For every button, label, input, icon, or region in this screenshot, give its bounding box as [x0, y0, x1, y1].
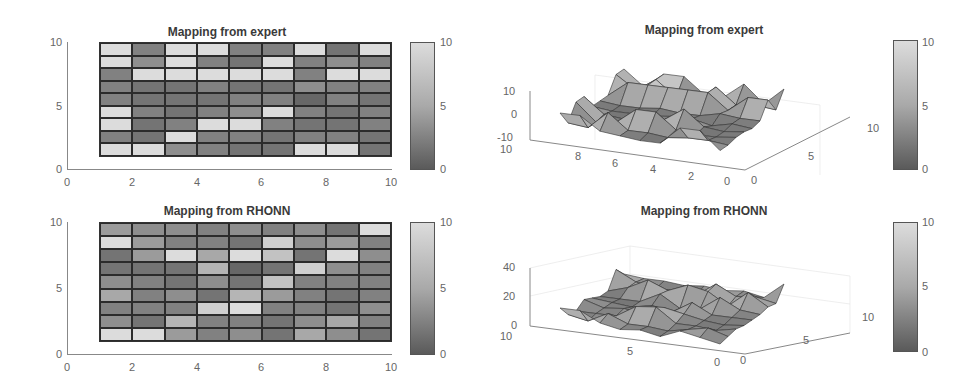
heatmap-cell — [197, 262, 229, 275]
x-tick: 0 — [714, 356, 720, 368]
heatmap-cell — [165, 236, 197, 249]
colorbar — [893, 222, 918, 352]
z-tick: -10 — [497, 131, 513, 143]
heatmap-cell — [359, 131, 391, 144]
heatmap-cell — [294, 302, 326, 315]
heatmap-cell — [165, 275, 197, 288]
heatmap-cell — [132, 223, 164, 236]
heatmap-cell — [294, 223, 326, 236]
heatmap-cell — [132, 315, 164, 328]
heatmap-cell — [294, 68, 326, 81]
heatmap-cell — [359, 143, 391, 156]
expert-surface-plot — [520, 35, 880, 195]
heatmap-cell — [100, 106, 132, 119]
heatmap-cell — [165, 223, 197, 236]
heatmap-cell — [294, 106, 326, 119]
heatmap-cell — [197, 236, 229, 249]
heatmap-cell — [100, 289, 132, 302]
heatmap-cell — [165, 131, 197, 144]
colorbar-tick: 10 — [922, 36, 934, 48]
heatmap-cell — [100, 236, 132, 249]
y-axis — [67, 222, 68, 355]
colorbar-tick: 0 — [922, 163, 928, 175]
heatmap-cell — [294, 289, 326, 302]
x-tick: 0 — [64, 176, 70, 188]
heatmap-cell — [359, 262, 391, 275]
heatmap-cell — [262, 143, 294, 156]
heatmap-cell — [294, 275, 326, 288]
heatmap-cell — [132, 143, 164, 156]
heatmap-cell — [100, 223, 132, 236]
heatmap-cell — [197, 302, 229, 315]
y-tick: 10 — [867, 122, 879, 134]
heatmap-cell — [165, 289, 197, 302]
heatmap-cell — [326, 143, 358, 156]
heatmap-cell — [165, 106, 197, 119]
heatmap-cell — [132, 275, 164, 288]
x-tick: 6 — [258, 176, 264, 188]
colorbar-tick: 0 — [440, 163, 446, 175]
heatmap-cell — [359, 249, 391, 262]
heatmap-cell — [262, 68, 294, 81]
y-tick: 0 — [56, 348, 62, 360]
heatmap-cell — [229, 81, 261, 94]
x-tick: 5 — [627, 345, 633, 357]
heatmap-cell — [165, 143, 197, 156]
heatmap-cell — [359, 315, 391, 328]
heatmap-cell — [132, 68, 164, 81]
y-tick: 5 — [803, 334, 809, 346]
heatmap-cell — [100, 68, 132, 81]
x-tick: 8 — [323, 176, 329, 188]
heatmap-cell — [132, 249, 164, 262]
heatmap-cell — [197, 289, 229, 302]
heatmap-cell — [132, 328, 164, 341]
y-axis — [67, 42, 68, 170]
x-tick: 10 — [500, 330, 512, 342]
heatmap-cell — [262, 328, 294, 341]
heatmap-cell — [326, 43, 358, 56]
heatmap-cell — [326, 315, 358, 328]
x-tick: 6 — [258, 361, 264, 373]
heatmap-cell — [229, 43, 261, 56]
heatmap-cell — [326, 93, 358, 106]
heatmap-cell — [326, 223, 358, 236]
heatmap-cell — [100, 43, 132, 56]
colorbar-tick: 5 — [922, 100, 928, 112]
colorbar-tick: 0 — [922, 346, 928, 358]
heatmap-cell — [165, 315, 197, 328]
heatmap-cell — [100, 143, 132, 156]
heatmap-cell — [197, 118, 229, 131]
x-tick: 6 — [612, 157, 618, 169]
heatmap-cell — [100, 328, 132, 341]
heatmap-cell — [359, 68, 391, 81]
y-tick: 0 — [740, 354, 746, 366]
x-tick: 0 — [64, 361, 70, 373]
heatmap-cell — [326, 275, 358, 288]
heatmap-cell — [197, 43, 229, 56]
y-tick: 0 — [751, 174, 757, 186]
heatmap-cell — [326, 289, 358, 302]
heatmap-cell — [229, 275, 261, 288]
heatmap-cell — [197, 106, 229, 119]
heatmap-cell — [165, 56, 197, 69]
heatmap-cell — [165, 302, 197, 315]
heatmap-cell — [229, 131, 261, 144]
heatmap-cell — [197, 131, 229, 144]
heatmap-cell — [262, 106, 294, 119]
heatmap-cell — [100, 81, 132, 94]
colorbar-tick: 5 — [922, 280, 928, 292]
heatmap-cell — [197, 56, 229, 69]
heatmap-cell — [132, 81, 164, 94]
heatmap-cell — [359, 56, 391, 69]
heatmap-cell — [262, 93, 294, 106]
heatmap-cell — [294, 118, 326, 131]
expert-heatmap-title: Mapping from expert — [168, 25, 287, 39]
heatmap-cell — [294, 249, 326, 262]
heatmap-cell — [165, 93, 197, 106]
heatmap-cell — [359, 106, 391, 119]
x-tick: 10 — [500, 143, 512, 155]
heatmap-cell — [165, 249, 197, 262]
x-tick: 10 — [385, 361, 397, 373]
colorbar — [893, 40, 918, 170]
y-tick: 10 — [50, 216, 62, 228]
